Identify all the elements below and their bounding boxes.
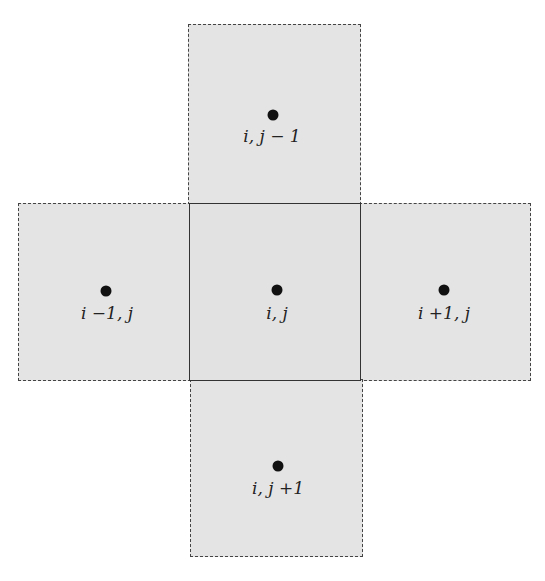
cell-label-south: i, j +1 <box>252 478 304 498</box>
node-dot-west <box>101 286 112 297</box>
node-dot-east <box>439 285 450 296</box>
cell-label-east: i +1, j <box>418 303 470 323</box>
node-dot-center <box>272 285 283 296</box>
node-dot-south <box>273 461 284 472</box>
cell-label-center: i, j <box>266 303 288 323</box>
node-dot-north <box>268 110 279 121</box>
cell-label-west: i −1, j <box>81 303 133 323</box>
cell-label-north: i, j − 1 <box>243 126 300 146</box>
